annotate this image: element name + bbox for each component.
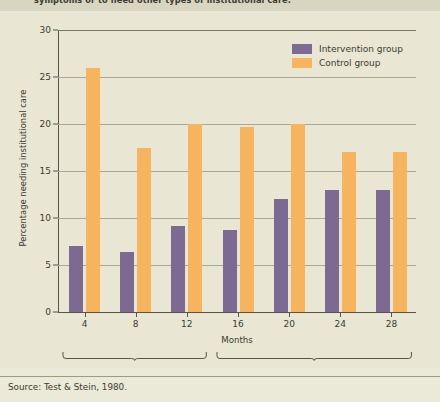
x-tick-label: 24 — [335, 319, 346, 329]
y-tick-mark — [53, 77, 58, 78]
chart-figure: Percentage needing institutional care 05… — [0, 13, 440, 368]
phase-bracket: During treatment — [62, 352, 207, 361]
bar-group — [120, 30, 151, 312]
y-tick-mark — [53, 124, 58, 125]
clipped-body-text: symptoms or to need other types of insti… — [34, 0, 291, 5]
bar-control — [240, 127, 254, 312]
x-tick-mark — [289, 313, 290, 317]
bar-group — [274, 30, 305, 312]
plot-area: 051015202530 481216202428 Months During … — [58, 30, 416, 313]
clipped-body-text-band: symptoms or to need other types of insti… — [0, 0, 440, 11]
bar-group — [171, 30, 202, 312]
y-tick-label: 0 — [45, 307, 51, 317]
legend-item: Intervention group — [292, 44, 403, 54]
y-tick-mark — [53, 218, 58, 219]
legend-swatch — [292, 58, 312, 68]
bar-intervention — [325, 190, 339, 312]
bar-intervention — [120, 252, 134, 312]
x-tick-mark — [340, 313, 341, 317]
bar-intervention — [376, 190, 390, 312]
y-tick-label: 30 — [40, 25, 51, 35]
y-tick-label: 25 — [40, 72, 51, 82]
chart-legend: Intervention groupControl group — [292, 44, 403, 72]
x-tick-label: 20 — [283, 319, 294, 329]
source-caption: Source: Test & Stein, 1980. — [8, 382, 127, 392]
bar-control — [342, 152, 356, 312]
y-tick-label: 20 — [40, 119, 51, 129]
bar-control — [137, 148, 151, 313]
bar-control — [188, 124, 202, 312]
bar-control — [291, 124, 305, 312]
x-tick-mark — [85, 313, 86, 317]
x-tick-label: 16 — [232, 319, 243, 329]
y-tick-label: 15 — [40, 166, 51, 176]
y-axis-title: Percentage needing institutional care — [18, 63, 28, 273]
bar-series-container — [59, 30, 416, 312]
bar-intervention — [69, 246, 83, 312]
bar-group — [69, 30, 100, 312]
x-tick-label: 8 — [133, 319, 139, 329]
y-tick-label: 5 — [45, 260, 51, 270]
bar-control — [86, 68, 100, 312]
x-axis-line — [58, 312, 416, 313]
source-divider — [0, 376, 440, 377]
y-tick-mark — [53, 312, 58, 313]
x-tick-label: 12 — [181, 319, 192, 329]
legend-swatch — [292, 44, 312, 54]
bar-group — [223, 30, 254, 312]
x-tick-mark — [391, 313, 392, 317]
y-tick-label: 10 — [40, 213, 51, 223]
y-tick-mark — [53, 30, 58, 31]
bar-intervention — [274, 199, 288, 312]
bar-control — [393, 152, 407, 312]
x-tick-mark — [187, 313, 188, 317]
bar-group — [325, 30, 356, 312]
y-tick-mark — [53, 171, 58, 172]
x-tick-mark — [238, 313, 239, 317]
bar-intervention — [171, 226, 185, 312]
legend-label: Control group — [319, 58, 381, 68]
x-tick-label: 4 — [82, 319, 88, 329]
x-tick-mark — [136, 313, 137, 317]
bar-group — [376, 30, 407, 312]
phase-bracket: After treatment — [216, 352, 412, 361]
y-tick-mark — [53, 265, 58, 266]
x-tick-label: 28 — [386, 319, 397, 329]
legend-label: Intervention group — [319, 44, 403, 54]
bar-intervention — [223, 230, 237, 312]
x-axis-title: Months — [58, 335, 416, 345]
legend-item: Control group — [292, 58, 403, 68]
